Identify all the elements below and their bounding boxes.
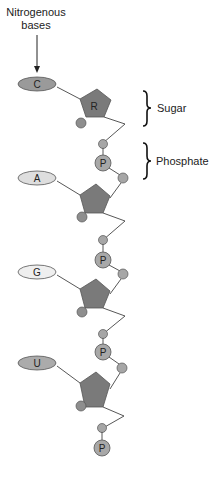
- phosphate-letter: P: [99, 443, 106, 454]
- base-letter-a: A: [34, 173, 41, 184]
- small-circle: [76, 118, 86, 128]
- nucleotide-4: P U: [18, 356, 124, 456]
- small-circle: [99, 236, 108, 245]
- phosphate-label: Phosphate: [156, 155, 209, 167]
- small-circle: [99, 330, 108, 339]
- base-letter-u: U: [33, 358, 40, 369]
- sugar-brace-icon: [143, 91, 151, 126]
- small-circle: [99, 140, 108, 149]
- arrow-down-icon: [34, 35, 40, 73]
- sugar-letter: R: [90, 101, 97, 112]
- base-letter-c: C: [33, 79, 40, 90]
- nucleotide-3: P G: [18, 265, 127, 389]
- sugar-pentagon: [80, 279, 110, 308]
- small-circle: [118, 269, 128, 279]
- small-circle: [118, 173, 128, 183]
- small-circle: [77, 212, 87, 222]
- base-letter-g: G: [33, 267, 41, 278]
- sugar-label: Sugar: [157, 102, 187, 114]
- small-circle: [117, 363, 127, 373]
- title-line-2: bases: [21, 19, 51, 31]
- sugar-pentagon: [80, 184, 110, 213]
- small-circle: [76, 401, 86, 411]
- small-circle: [77, 307, 87, 317]
- sugar-pentagon: [80, 372, 110, 407]
- title-line-1: Nitrogenous: [6, 6, 66, 18]
- phosphate-letter: P: [100, 347, 107, 358]
- phosphate-letter: P: [100, 158, 107, 169]
- small-circle: [98, 424, 107, 433]
- phosphate-letter: P: [100, 255, 107, 266]
- phosphate-brace-icon: [143, 143, 151, 179]
- rna-strand-diagram: Nitrogenous bases Sugar Phosphate R P: [0, 0, 212, 479]
